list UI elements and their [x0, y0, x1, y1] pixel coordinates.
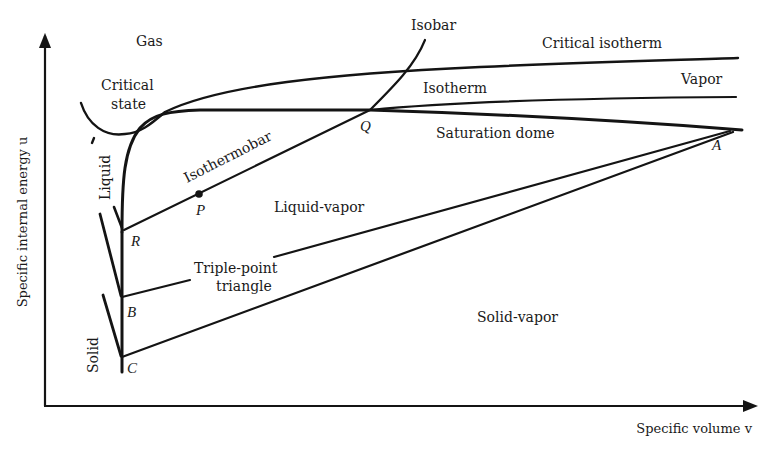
saturation-dome-label: Saturation dome — [436, 125, 555, 141]
critical-liquid-dash — [92, 138, 94, 143]
x-axis-label: Specific volume v — [636, 421, 752, 436]
y-axis-label: Specific internal energy u — [15, 137, 30, 308]
region-critical-state-label-1: Critical — [101, 77, 154, 93]
region-gas-label: Gas — [136, 33, 163, 49]
triple-point-label-2: triangle — [216, 278, 272, 294]
region-solid-vapor-label: Solid-vapor — [477, 309, 558, 325]
point-P-label: P — [195, 202, 205, 218]
point-C-label: C — [127, 360, 138, 376]
isotherm-curve — [370, 97, 736, 110]
isothermobar-label: Isothermobar — [181, 127, 274, 185]
region-liquid-vapor-label: Liquid-vapor — [274, 199, 365, 215]
isotherm-label: Isotherm — [423, 80, 487, 96]
isobar-curve — [370, 40, 425, 110]
liquid-solid-boundary — [100, 214, 121, 296]
region-critical-state-label-2: state — [111, 96, 146, 112]
point-B-label: B — [127, 304, 136, 320]
triple-line-B-to-A-right — [274, 131, 730, 257]
region-solid-label: Solid — [85, 337, 101, 373]
triple-point-label-1: Triple-point — [194, 260, 278, 276]
solid-boundary — [103, 295, 121, 356]
region-vapor-label: Vapor — [680, 71, 723, 87]
point-R-label: R — [130, 233, 140, 249]
isobar-label: Isobar — [411, 17, 456, 33]
region-liquid-label: Liquid — [97, 155, 113, 200]
u-v-phase-diagram: Specific internal energy u Specific volu… — [0, 0, 775, 449]
critical-isotherm-label: Critical isotherm — [542, 35, 662, 51]
triple-line-B-to-A-left — [122, 280, 190, 297]
point-P-marker — [195, 190, 203, 198]
point-Q-label: Q — [360, 118, 371, 134]
point-A-label: A — [711, 137, 722, 153]
